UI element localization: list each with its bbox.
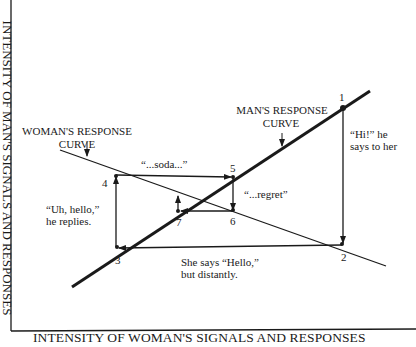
point-2-dot — [340, 242, 344, 246]
point-5-dot — [231, 175, 235, 179]
annotation-uh-hello: “Uh, hello,” he replies. — [46, 203, 99, 227]
annotation-hi: “Hi!” he says to her — [350, 128, 397, 152]
point-4-dot — [114, 174, 118, 178]
annotation-uh-hello-line1: “Uh, hello,” — [46, 203, 99, 215]
annotation-soda-line1: “...soda...” — [141, 158, 187, 170]
x-axis-title: INTENSITY OF WOMAN'S SIGNALS AND RESPONS… — [33, 330, 366, 346]
point-1-label: 1 — [339, 92, 345, 103]
point-3-dot — [115, 245, 119, 249]
woman-curve-title-line1: WOMAN'S RESPONSE — [16, 125, 138, 137]
annotation-she-says-hello-line1: She says “Hello,” — [181, 256, 259, 268]
annotation-uh-hello-line2: he replies. — [46, 215, 99, 227]
annotation-she-says-hello-line2: but distantly. — [181, 268, 259, 280]
point-6-dot — [231, 208, 235, 212]
woman-response-curve — [60, 150, 386, 266]
annotation-she-says-hello: She says “Hello,” but distantly. — [181, 256, 259, 280]
point-7-dot — [176, 209, 180, 213]
point-3-label: 3 — [115, 255, 121, 266]
axes — [11, 0, 416, 331]
point-6-label: 6 — [230, 216, 236, 227]
woman-curve-title-line2: CURVE — [52, 138, 102, 150]
point-2-label: 2 — [341, 252, 347, 263]
point-4-label: 4 — [102, 178, 108, 189]
annotation-regret: “...regret” — [244, 188, 288, 200]
annotation-hi-line2: says to her — [350, 140, 397, 152]
man-curve-title-2: CURVE — [256, 117, 306, 129]
annotation-soda: “...soda...” — [141, 158, 187, 170]
man-curve-title: MAN'S RESPONSE — [222, 104, 342, 116]
man-curve-title-line2: CURVE — [256, 117, 306, 129]
woman-curve-title: WOMAN'S RESPONSE — [16, 125, 138, 137]
man-curve-title-line1: MAN'S RESPONSE — [222, 104, 342, 116]
woman-curve-title-2: CURVE — [52, 138, 102, 150]
y-axis-title: INTENSITY OF MAN'S SIGNALS AND RESPONSES — [0, 0, 15, 338]
point-7-label: 7 — [176, 217, 182, 228]
point-5-label: 5 — [230, 163, 236, 174]
response-curve-diagram — [0, 0, 416, 347]
annotation-hi-line1: “Hi!” he — [350, 128, 397, 140]
annotation-regret-line1: “...regret” — [244, 188, 288, 200]
arrow-2-to-3 — [119, 245, 342, 248]
